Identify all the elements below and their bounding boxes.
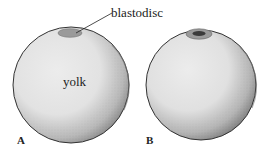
egg-b bbox=[146, 29, 256, 140]
panel-label-a: A bbox=[17, 134, 25, 146]
blastodisc-callout-label: blastodisc bbox=[111, 5, 163, 21]
blastodisc-core-b bbox=[193, 31, 206, 36]
blastodisc-a bbox=[58, 29, 82, 38]
egg-diagram bbox=[0, 0, 272, 155]
callout-leader-line bbox=[76, 13, 112, 33]
panel-label-b: B bbox=[146, 134, 153, 146]
yolk-label: yolk bbox=[63, 74, 86, 90]
